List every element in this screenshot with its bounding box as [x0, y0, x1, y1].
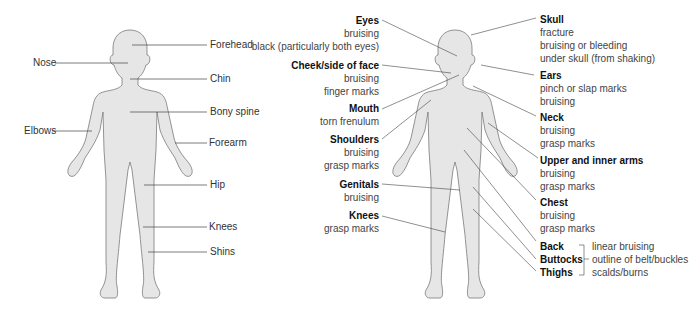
group-line: under skull (from shaking) — [540, 52, 655, 65]
group-line: bruising or bleeding — [540, 39, 655, 52]
right-body-figure — [393, 30, 517, 298]
group-title: Shoulders — [324, 133, 379, 146]
group-knees: Knees grasp marks — [324, 209, 379, 235]
group-cheek: Cheek/side of face bruising finger marks — [291, 59, 379, 98]
note-scalds-burns: scalds/burns — [592, 266, 688, 279]
group-title: Knees — [324, 209, 379, 222]
group-chest: Chest bruising grasp marks — [540, 196, 595, 235]
group-line: bruising — [540, 209, 595, 222]
group-title: Skull — [540, 13, 655, 26]
group-line: bruising — [252, 27, 379, 40]
label-knees: Knees — [209, 220, 237, 233]
label-shins: Shins — [210, 245, 235, 258]
label-chin: Chin — [210, 72, 231, 85]
note-linear-bruising: linear bruising — [592, 240, 688, 253]
group-title: Eyes — [252, 14, 379, 27]
group-line: grasp marks — [324, 159, 379, 172]
group-line: grasp marks — [540, 222, 595, 235]
group-line: grasp marks — [540, 137, 595, 150]
group-title: Mouth — [320, 102, 379, 115]
group-line: grasp marks — [540, 180, 643, 193]
group-eyes: Eyes bruising black (particularly both e… — [252, 14, 379, 53]
label-bony-spine: Bony spine — [210, 105, 259, 118]
left-body-figure — [68, 30, 192, 298]
title-back: Back — [540, 240, 583, 253]
group-shoulders: Shoulders bruising grasp marks — [324, 133, 379, 172]
group-title: Upper and inner arms — [540, 154, 643, 167]
group-line: black (particularly both eyes) — [252, 40, 379, 53]
group-back-buttocks-thighs-titles: Back Buttocks Thighs — [540, 240, 583, 279]
group-neck: Neck bruising grasp marks — [540, 111, 595, 150]
group-line: bruising — [291, 72, 379, 85]
group-line: bruising — [340, 191, 379, 204]
group-back-buttocks-thighs-notes: linear bruising outline of belt/buckles … — [592, 240, 688, 279]
group-line: grasp marks — [324, 222, 379, 235]
group-title: Ears — [540, 69, 627, 82]
group-line: torn frenulum — [320, 115, 379, 128]
group-title: Neck — [540, 111, 595, 124]
label-nose: Nose — [33, 56, 56, 69]
group-line: pinch or slap marks — [540, 82, 627, 95]
group-line: bruising — [540, 95, 627, 108]
group-line: finger marks — [291, 85, 379, 98]
title-buttocks: Buttocks — [540, 253, 583, 266]
group-line: bruising — [324, 146, 379, 159]
group-title: Cheek/side of face — [291, 59, 379, 72]
group-ears: Ears pinch or slap marks bruising — [540, 69, 627, 108]
label-elbows: Elbows — [24, 124, 56, 137]
group-line: bruising — [540, 124, 595, 137]
group-line: bruising — [540, 167, 643, 180]
label-forearm: Forearm — [209, 136, 247, 149]
group-upper-inner-arms: Upper and inner arms bruising grasp mark… — [540, 154, 643, 193]
note-belt-buckles: outline of belt/buckles — [592, 253, 688, 266]
group-line: fracture — [540, 26, 655, 39]
group-title: Chest — [540, 196, 595, 209]
label-hip: Hip — [210, 178, 225, 191]
group-title: Genitals — [340, 178, 379, 191]
group-genitals: Genitals bruising — [340, 178, 379, 204]
title-thighs: Thighs — [540, 266, 583, 279]
group-skull: Skull fracture bruising or bleeding unde… — [540, 13, 655, 65]
label-forehead: Forehead — [210, 38, 253, 51]
group-mouth: Mouth torn frenulum — [320, 102, 379, 128]
